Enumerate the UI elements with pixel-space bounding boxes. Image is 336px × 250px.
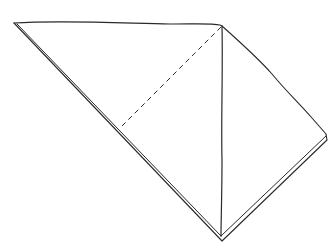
left-edge-outer [14,23,222,241]
lower-right-edge-inner [221,136,326,236]
dashed-fold-guide [122,27,221,126]
diagram-svg [0,0,336,250]
left-edge-inner [17,24,221,236]
top-edge [14,22,222,26]
vertical-fold-line [221,26,222,236]
upper-right-edge [222,26,326,134]
folding-diagram [0,0,336,250]
